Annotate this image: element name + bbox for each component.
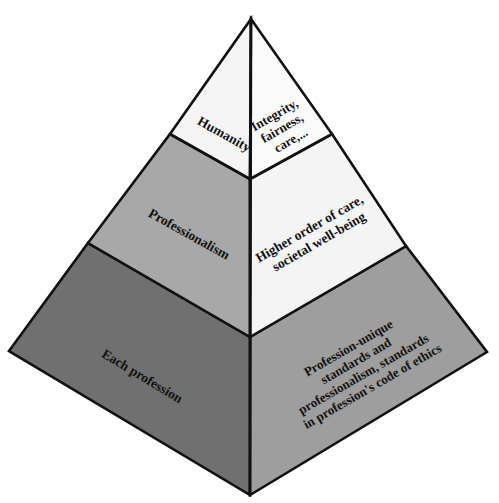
pyramid-diagram: Humanity Integrity, fairness, care,... P…	[0, 0, 499, 503]
center-ridge-line	[250, 19, 251, 495]
